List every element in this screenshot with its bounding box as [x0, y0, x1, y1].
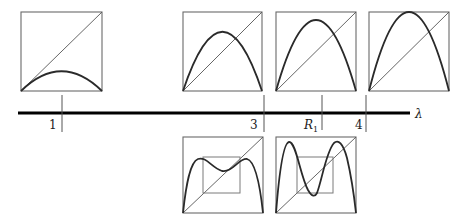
lambda-symbol: λ [414, 107, 423, 121]
parabola-curve [276, 20, 356, 91]
second-iterate-curve [276, 142, 356, 213]
identity-diagonal [183, 137, 263, 213]
tick-label-R-subscript: 1 [313, 125, 318, 134]
tick-label-3: 3 [250, 118, 258, 132]
tick-label-4: 4 [355, 118, 363, 132]
identity-diagonal [276, 12, 356, 91]
lambda-axis: 1 3 R 1 4 λ [18, 95, 423, 134]
identity-diagonal [21, 12, 102, 91]
parabola-curve [183, 32, 262, 91]
panel-lambda-3 [183, 12, 262, 91]
panel-lambda-R1 [276, 12, 356, 91]
second-iterate-curve [183, 159, 263, 213]
parabola-curve [21, 71, 102, 91]
tick-label-1: 1 [49, 118, 57, 132]
identity-diagonal [183, 12, 262, 91]
panel-second-iterate-lambda-3 [183, 137, 263, 213]
logistic-map-figure: 1 3 R 1 4 λ [0, 0, 467, 224]
panel-lambda-4 [369, 12, 449, 91]
panel-second-iterate-lambda-R1 [276, 137, 356, 213]
panel-lambda-1 [21, 12, 102, 91]
tick-label-R: R [303, 118, 313, 132]
